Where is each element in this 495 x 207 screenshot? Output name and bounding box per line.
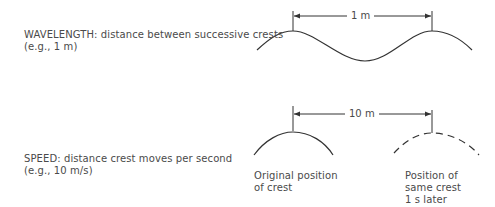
arrowhead-left	[294, 112, 300, 117]
arrowhead-right	[425, 14, 431, 19]
original-crest-arc	[254, 132, 333, 155]
later-label-line3: 1 s later	[405, 194, 447, 206]
wavelength-dimension-label: 1 m	[347, 10, 374, 22]
wavelength-example: (e.g., 1 m)	[24, 41, 77, 53]
speed-title: SPEED: distance crest moves per second	[24, 153, 232, 165]
wave-curve	[257, 31, 472, 61]
arrowhead-left	[294, 14, 300, 19]
original-label-line2: of crest	[254, 182, 292, 194]
later-label-line1: Position of	[405, 170, 458, 182]
wavelength-title: WAVELENGTH: distance between successive …	[24, 29, 283, 41]
speed-dimension-label: 10 m	[345, 108, 379, 120]
later-crest-arc	[394, 133, 479, 155]
arrowhead-right	[425, 112, 431, 117]
speed-example: (e.g., 10 m/s)	[24, 165, 93, 177]
original-label-line1: Original position	[254, 170, 338, 182]
later-label-line2: same crest	[405, 182, 461, 194]
